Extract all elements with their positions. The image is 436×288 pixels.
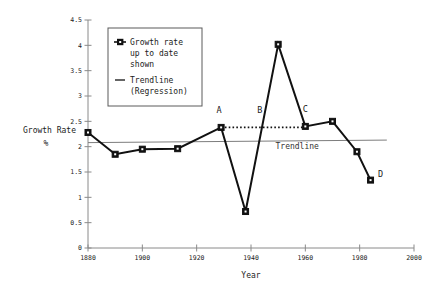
- line-chart-svg: 00.511.522.533.544.518801900192019401960…: [0, 0, 436, 288]
- legend-entry-2-line-1: Trendline: [130, 76, 174, 85]
- data-point-marker-center: [220, 126, 222, 128]
- x-tick-label: 1980: [352, 254, 368, 262]
- x-tick-label: 1940: [243, 254, 259, 262]
- annotation-label-d: D: [378, 169, 383, 179]
- data-point-marker-center: [114, 153, 116, 155]
- data-point-marker-center: [177, 148, 179, 150]
- x-tick-label: 1920: [189, 254, 205, 262]
- y-tick-label: 0.5: [70, 219, 82, 227]
- y-axis-title-line2: %: [44, 139, 49, 148]
- y-tick-label: 1.5: [70, 168, 82, 176]
- data-point-marker-center: [141, 148, 143, 150]
- y-axis-title-line1: Growth Rate: [23, 126, 76, 135]
- legend-entry-1-line-2: up to date: [130, 49, 178, 58]
- trendline-inline-label: Trendline: [276, 142, 320, 151]
- y-tick-label: 0: [78, 244, 82, 252]
- y-tick-label: 2.5: [70, 118, 82, 126]
- data-point-marker-center: [370, 179, 372, 181]
- data-point-marker-center: [245, 211, 247, 213]
- x-axis-title: Year: [241, 271, 260, 280]
- x-tick-label: 1960: [298, 254, 314, 262]
- data-point-marker-center: [277, 43, 279, 45]
- y-tick-label: 4.5: [70, 16, 82, 24]
- x-tick-label: 1880: [80, 254, 96, 262]
- trendline-regression: [88, 140, 387, 143]
- legend-entry-2-line-2: (Regression): [130, 87, 188, 96]
- annotation-label-c: C: [303, 104, 308, 114]
- data-point-marker-center: [304, 125, 306, 127]
- square-dot-marker-center-icon: [119, 41, 121, 43]
- legend-entry-1-line-3: shown: [130, 60, 154, 69]
- annotation-label-a: A: [217, 105, 222, 115]
- legend-entry-1-line-1: Growth rate: [130, 38, 183, 47]
- y-tick-label: 3.5: [70, 67, 82, 75]
- data-point-marker-center: [332, 120, 334, 122]
- x-tick-label: 1900: [135, 254, 151, 262]
- y-tick-label: 3: [78, 92, 82, 100]
- data-point-marker-center: [87, 131, 89, 133]
- annotation-label-b: B: [257, 105, 262, 115]
- chart-container: 00.511.522.533.544.518801900192019401960…: [0, 0, 436, 288]
- x-tick-label: 2000: [406, 254, 422, 262]
- y-tick-label: 4: [78, 42, 82, 50]
- y-tick-label: 1: [78, 194, 82, 202]
- data-point-marker-center: [356, 151, 358, 153]
- y-tick-label: 2: [78, 143, 82, 151]
